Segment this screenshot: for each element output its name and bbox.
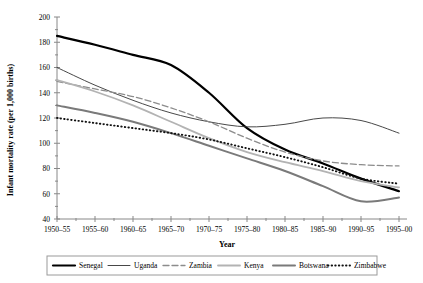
- x-tick-label: 1990–95: [348, 225, 375, 234]
- y-axis-title: Infant mortality rate (per 1,000 births): [6, 64, 15, 197]
- y-tick-label: 160: [39, 63, 51, 72]
- x-tick-label: 1980–85: [272, 225, 299, 234]
- series-line-kenya: [57, 80, 399, 187]
- x-tick-label: 1985–90: [310, 225, 337, 234]
- y-tick-label: 80: [43, 164, 51, 173]
- legend-label-zambia: Zambia: [189, 261, 213, 270]
- x-axis: 1950–551955–601960–651965–701970–751975–…: [44, 216, 413, 234]
- series-lines: [57, 36, 399, 202]
- y-tick-label: 140: [39, 89, 51, 98]
- chart-figure: 406080100120140160180200 1950–551955–601…: [0, 0, 423, 283]
- chart-legend: SenegalUgandaZambiaKenyaBotswanaZimbabwe: [47, 256, 387, 275]
- x-tick-label: 1975–80: [234, 225, 261, 234]
- y-tick-label: 60: [43, 190, 51, 199]
- x-tick-label: 1960–65: [120, 225, 147, 234]
- y-tick-label: 180: [39, 38, 51, 47]
- y-tick-label: 200: [39, 13, 51, 22]
- legend-label-senegal: Senegal: [79, 261, 103, 270]
- x-tick-label: 1995–00: [386, 225, 413, 234]
- x-tick-label: 1950–55: [44, 225, 71, 234]
- legend-label-zimbabwe: Zimbabwe: [354, 261, 387, 270]
- x-tick-label: 1970–75: [196, 225, 223, 234]
- legend-label-uganda: Uganda: [134, 261, 158, 270]
- series-line-uganda: [57, 68, 399, 134]
- y-tick-label: 40: [43, 215, 51, 224]
- series-line-zambia: [57, 81, 399, 166]
- series-line-senegal: [57, 36, 399, 191]
- y-tick-label: 120: [39, 114, 51, 123]
- legend-label-botswana: Botswana: [299, 261, 329, 270]
- line-chart: 406080100120140160180200 1950–551955–601…: [0, 0, 423, 283]
- y-tick-label: 100: [39, 139, 51, 148]
- series-line-botswana: [57, 105, 399, 201]
- x-tick-label: 1955–60: [82, 225, 109, 234]
- x-tick-label: 1965–70: [158, 225, 185, 234]
- legend-label-kenya: Kenya: [244, 261, 264, 270]
- x-axis-title: Year: [219, 240, 235, 249]
